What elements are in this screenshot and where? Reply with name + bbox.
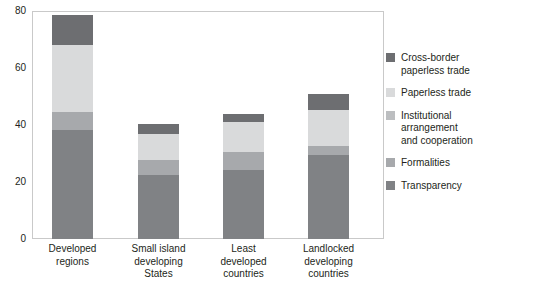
legend-label-line: paperless trade [401, 65, 470, 78]
legend-label-line: arrangement [401, 122, 473, 135]
legend-item-label: Cross-borderpaperless trade [401, 52, 470, 77]
bar-segment[interactable] [223, 152, 264, 170]
bar-segment[interactable] [52, 130, 93, 239]
legend-item-label: Institutionalarrangementand cooperation [401, 110, 473, 148]
y-axis-tick-label: 60 [15, 63, 26, 73]
bars-layer [32, 11, 384, 239]
legend-label-line: Transparency [401, 180, 462, 193]
bar-stack[interactable] [138, 124, 179, 239]
legend-label-line: and cooperation [401, 135, 473, 148]
y-axis-tick-label: 80 [15, 6, 26, 16]
bar-segment[interactable] [223, 170, 264, 239]
bar-stack[interactable] [308, 94, 349, 239]
bar-segment[interactable] [52, 112, 93, 130]
legend-swatch-paperless-trade-icon [386, 88, 395, 97]
bar-segment[interactable] [223, 114, 264, 123]
bar-segment[interactable] [138, 124, 179, 134]
legend-item[interactable]: Transparency [386, 180, 531, 193]
stacked-bar-chart: 020406080 DevelopedregionsSmall islandde… [0, 0, 533, 291]
legend-item-label: Transparency [401, 180, 462, 193]
legend-swatch-transparency-icon [386, 181, 395, 190]
legend-item[interactable]: Cross-borderpaperless trade [386, 52, 531, 77]
bar-segment[interactable] [52, 45, 93, 112]
bar-segment[interactable] [308, 155, 349, 239]
legend-item[interactable]: Paperless trade [386, 87, 531, 100]
y-axis-tick-label: 40 [15, 120, 26, 130]
bar-segment[interactable] [138, 134, 179, 161]
legend-swatch-formalities-icon [386, 158, 395, 167]
y-axis-tick-label: 20 [15, 177, 26, 187]
bar-segment[interactable] [138, 175, 179, 239]
legend-label-line: Paperless trade [401, 87, 471, 100]
x-axis-label-line: developing [277, 256, 381, 269]
bar-segment[interactable] [308, 146, 349, 155]
x-axis-label-line: Landlocked [277, 243, 381, 256]
legend-item-label: Formalities [401, 157, 450, 170]
chart-legend: Cross-borderpaperless tradePaperless tra… [386, 52, 531, 202]
bar-segment[interactable] [138, 160, 179, 175]
legend-label-line: Formalities [401, 157, 450, 170]
legend-swatch-cross-border-paperless-trade-icon [386, 53, 395, 62]
bar-segment[interactable] [308, 110, 349, 146]
legend-item[interactable]: Formalities [386, 157, 531, 170]
bar-stack[interactable] [52, 15, 93, 239]
bar-segment[interactable] [308, 94, 349, 110]
bar-segment[interactable] [52, 15, 93, 45]
legend-item[interactable]: Institutionalarrangementand cooperation [386, 110, 531, 148]
x-axis-label-line: countries [277, 268, 381, 281]
legend-item-label: Paperless trade [401, 87, 471, 100]
legend-label-line: Institutional [401, 110, 473, 123]
bar-segment[interactable] [223, 122, 264, 152]
legend-swatch-institutional-arrangement-and-cooperation-icon [386, 111, 395, 120]
x-axis-labels: DevelopedregionsSmall islanddevelopingSt… [32, 243, 384, 291]
x-axis-category-label: Landlockeddevelopingcountries [277, 243, 381, 281]
bar-stack[interactable] [223, 114, 264, 239]
legend-label-line: Cross-border [401, 52, 470, 65]
